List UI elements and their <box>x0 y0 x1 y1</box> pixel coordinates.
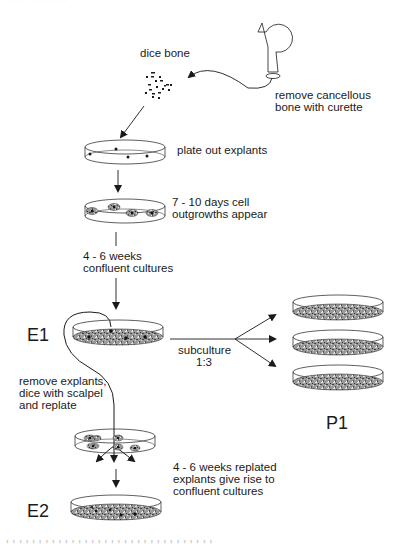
dish-explants <box>85 140 165 164</box>
label-confluent-1: 4 - 6 weeks <box>83 250 142 263</box>
dish-p1-1 <box>293 295 383 320</box>
dish-p1-3 <box>293 365 383 390</box>
label-dice-bone: dice bone <box>140 47 190 60</box>
label-outgrowth-2: outgrowths appear <box>172 208 267 221</box>
label-e1: E1 <box>27 325 49 346</box>
label-curette-1: remove cancellous <box>275 89 371 102</box>
label-replated-1: 4 - 6 weeks replated <box>173 461 277 474</box>
label-curette-2: bone with curette <box>275 101 363 114</box>
curette-icon <box>258 23 293 79</box>
label-subculture-2: 1:3 <box>196 356 212 369</box>
dish-e2 <box>71 495 161 520</box>
diced-bone-icon <box>145 72 172 99</box>
label-plate: plate out explants <box>177 144 267 157</box>
label-e2: E2 <box>27 501 49 522</box>
dish-p1-2 <box>293 330 383 355</box>
clipped-caption: ' ' ' ' ' ' ' ' ' ' ' ' ' ' ' ' ' ' ' ' … <box>6 538 402 544</box>
dish-replated <box>75 429 155 453</box>
label-confluent-2: confluent cultures <box>83 262 173 275</box>
label-replated-3: confluent cultures <box>173 485 263 498</box>
dish-outgrowths <box>85 199 165 223</box>
clipped-header-text: - - - - - - - - - <box>4 0 124 6</box>
dish-e1 <box>73 320 163 345</box>
label-p1: P1 <box>326 413 348 434</box>
label-replate-1: remove explants, <box>19 375 107 388</box>
label-replate-3: and replate <box>19 399 77 412</box>
label-replated-2: explants give rise to <box>173 473 275 486</box>
label-outgrowth-1: 7 - 10 days cell <box>172 196 249 209</box>
label-subculture-1: subculture <box>178 344 231 357</box>
label-replate-2: dice with scalpel <box>19 387 103 400</box>
arrow-curette-to-bone <box>189 71 272 89</box>
